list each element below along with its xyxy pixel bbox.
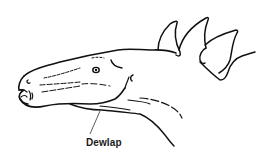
snout-wrinkle-3 — [42, 86, 80, 92]
nostril — [27, 80, 30, 83]
neck-dashed-line — [140, 98, 182, 118]
dinosaur-drawing — [0, 0, 277, 159]
snout-wrinkle-1 — [44, 68, 80, 78]
cheek-wrinkle — [82, 84, 110, 86]
dewlap-leader-line — [90, 111, 100, 134]
dorsal-plate-2-base — [200, 48, 206, 64]
ear-mark — [131, 75, 133, 81]
brow-wrinkle — [92, 57, 104, 58]
dewlap-inner-line — [100, 106, 130, 110]
dinosaur-head-illustration: Dewlap — [0, 0, 277, 159]
pupil — [95, 69, 97, 71]
snout-wrinkle-2 — [40, 82, 80, 85]
dorsal-plate-2 — [179, 18, 208, 50]
cheek-line — [125, 77, 129, 88]
dorsal-plate-3 — [205, 30, 238, 73]
head-top-outline — [24, 49, 176, 76]
brow-line — [111, 60, 122, 68]
neck-underside — [128, 100, 150, 104]
dewlap-label: Dewlap — [86, 137, 122, 148]
